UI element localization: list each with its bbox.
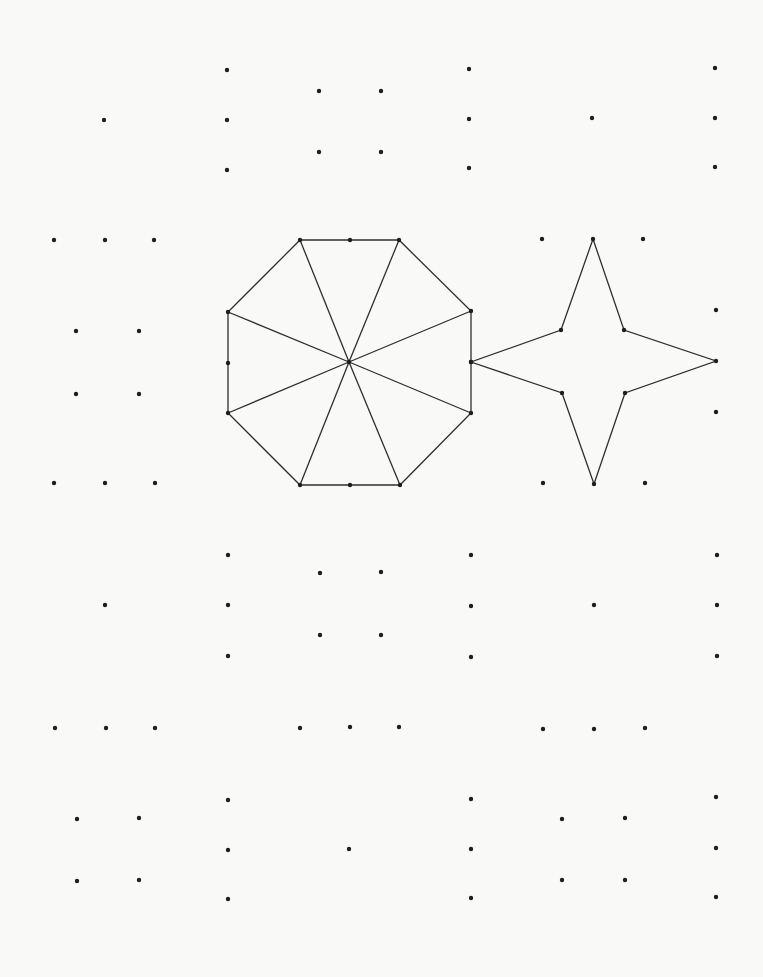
grid-dot	[379, 570, 383, 574]
grid-dot	[102, 118, 106, 122]
grid-dot	[137, 816, 141, 820]
grid-dot	[467, 67, 471, 71]
grid-dot	[643, 726, 647, 730]
star-vertex	[560, 391, 564, 395]
grid-dot	[348, 725, 352, 729]
octagon-vertex	[469, 411, 473, 415]
grid-dot	[715, 553, 719, 557]
octagon-shape	[226, 238, 473, 487]
octagon-spoke	[300, 240, 349, 362]
grid-dot	[713, 66, 717, 70]
grid-dot	[152, 238, 156, 242]
grid-dot	[560, 878, 564, 882]
grid-dot	[103, 481, 107, 485]
grid-dot	[225, 68, 229, 72]
octagon-vertex	[398, 483, 402, 487]
octagon-spoke	[300, 362, 349, 485]
grid-dot	[623, 878, 627, 882]
grid-dot	[53, 726, 57, 730]
grid-dot	[643, 481, 647, 485]
grid-dot	[317, 89, 321, 93]
grid-dot	[714, 308, 718, 312]
octagon-vertex	[298, 483, 302, 487]
grid-dot	[226, 603, 230, 607]
octagon-vertex	[469, 309, 473, 313]
grid-dot	[714, 846, 718, 850]
octagon-vertex	[397, 238, 401, 242]
grid-dot	[541, 481, 545, 485]
grid-dot	[714, 895, 718, 899]
star-outline	[471, 239, 716, 484]
grid-dot	[137, 329, 141, 333]
grid-dot	[469, 896, 473, 900]
grid-dot	[317, 150, 321, 154]
grid-dot	[541, 727, 545, 731]
grid-dot	[318, 571, 322, 575]
grid-dot	[592, 727, 596, 731]
grid-dot	[137, 392, 141, 396]
octagon-vertex	[226, 411, 230, 415]
grid-dot	[226, 848, 230, 852]
grid-dot	[713, 165, 717, 169]
octagon-vertex	[226, 310, 230, 314]
grid-dot	[379, 150, 383, 154]
grid-dot	[226, 553, 230, 557]
octagon-vertex	[298, 238, 302, 242]
grid-dot	[715, 654, 719, 658]
grid-dot	[469, 847, 473, 851]
grid-dot	[713, 116, 717, 120]
grid-dot	[153, 726, 157, 730]
grid-dot	[74, 329, 78, 333]
octagon-midpoint	[348, 483, 352, 487]
grid-dot	[379, 633, 383, 637]
grid-dot	[715, 603, 719, 607]
grid-dot	[75, 817, 79, 821]
grid-dot	[226, 798, 230, 802]
grid-dot	[226, 897, 230, 901]
star-vertex	[623, 391, 627, 395]
octagon-center	[347, 360, 351, 364]
grid-dot	[225, 168, 229, 172]
grid-dot	[75, 879, 79, 883]
dot-grid-worksheet	[0, 0, 763, 977]
middle-cluster	[103, 553, 719, 659]
grid-dot	[590, 116, 594, 120]
grid-dot	[469, 655, 473, 659]
grid-dot	[540, 237, 544, 241]
grid-dot	[225, 118, 229, 122]
grid-dot	[153, 481, 157, 485]
star-vertex	[714, 359, 718, 363]
grid-dot	[103, 238, 107, 242]
grid-dot	[137, 878, 141, 882]
octagon-spoke	[228, 312, 349, 362]
grid-dot	[714, 410, 718, 414]
grid-dot	[467, 166, 471, 170]
star-vertex	[559, 328, 563, 332]
grid-dot	[379, 89, 383, 93]
star-vertex	[592, 482, 596, 486]
star-vertex	[591, 237, 595, 241]
grid-dot	[318, 633, 322, 637]
grid-dot	[347, 847, 351, 851]
top-left-cluster	[102, 67, 471, 172]
grid-dot	[467, 117, 471, 121]
grid-dot	[298, 726, 302, 730]
star-vertex	[622, 328, 626, 332]
grid-dot	[104, 726, 108, 730]
grid-dot	[52, 481, 56, 485]
octagon-midpoint	[226, 361, 230, 365]
grid-dot	[623, 816, 627, 820]
grid-dot	[469, 604, 473, 608]
row-728	[53, 725, 647, 731]
star-vertex	[469, 360, 473, 364]
grid-dot	[74, 392, 78, 396]
grid-dot	[469, 553, 473, 557]
grid-dot	[714, 795, 718, 799]
grid-dot	[52, 238, 56, 242]
grid-dot	[103, 603, 107, 607]
grid-dot	[469, 797, 473, 801]
four-point-star-shape	[469, 237, 718, 486]
octagon-midpoint	[348, 238, 352, 242]
left-square-upper	[74, 329, 141, 396]
grid-dot	[397, 725, 401, 729]
